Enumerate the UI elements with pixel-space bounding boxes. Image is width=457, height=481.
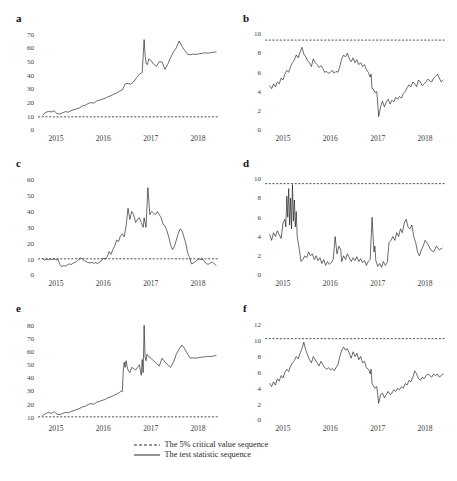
ytick-label: 40	[27, 208, 35, 216]
xtick-label: 2018	[191, 134, 206, 143]
ytick-label: 10	[254, 175, 262, 183]
ytick-label: 8	[258, 353, 262, 361]
xtick-label: 2015	[49, 134, 64, 143]
xtick-label: 2015	[276, 134, 291, 143]
ytick-label: 4	[258, 385, 262, 393]
ytick-label: 10	[254, 337, 262, 345]
ytick-label: 4	[258, 233, 262, 241]
panel-c: c01020304050602015201620172018	[2, 155, 230, 305]
ytick-label: 50	[27, 361, 35, 369]
panel-f: f0246810122015201620172018	[229, 300, 457, 450]
plot-d: 02468102015201620172018	[229, 155, 457, 305]
legend-label-critical: The 5% critical value sequence	[165, 440, 269, 449]
xtick-label: 2015	[49, 424, 64, 433]
xtick-label: 2017	[143, 424, 158, 433]
xtick-label: 2016	[96, 134, 111, 143]
ytick-label: 10	[254, 30, 262, 38]
ytick-label: 20	[27, 99, 35, 107]
ytick-label: 8	[258, 194, 262, 202]
ytick-label: 0	[31, 271, 35, 279]
ytick-label: 2	[258, 401, 262, 409]
test-statistic-series	[43, 188, 216, 267]
ytick-label: 0	[31, 126, 35, 134]
ytick-label: 6	[258, 369, 262, 377]
ytick-label: 80	[27, 322, 35, 330]
ytick-label: 30	[27, 224, 35, 232]
ytick-label: 50	[27, 192, 35, 200]
ytick-label: 4	[258, 88, 262, 96]
ytick-label: 20	[27, 240, 35, 248]
test-statistic-series	[43, 40, 216, 115]
xtick-label: 2018	[191, 424, 206, 433]
xtick-label: 2017	[370, 424, 385, 433]
ytick-label: 6	[258, 214, 262, 222]
ytick-label: 30	[27, 387, 35, 395]
plot-a: 0102030405060702015201620172018	[2, 10, 230, 160]
ytick-label: 0	[258, 126, 262, 134]
xtick-label: 2015	[49, 279, 64, 288]
ytick-label: 20	[27, 401, 35, 409]
xtick-label: 2016	[96, 279, 111, 288]
ytick-label: 30	[27, 85, 35, 93]
ytick-label: 6	[258, 69, 262, 77]
ytick-label: 70	[27, 335, 35, 343]
panel-d: d02468102015201620172018	[229, 155, 457, 305]
xtick-label: 2017	[370, 279, 385, 288]
plot-b: 02468102015201620172018	[229, 10, 457, 160]
xtick-label: 2017	[143, 279, 158, 288]
ytick-label: 2	[258, 107, 262, 115]
xtick-label: 2016	[96, 424, 111, 433]
ytick-label: 60	[27, 44, 35, 52]
figure-legend: The 5% critical value sequence The test …	[0, 440, 457, 459]
xtick-label: 2018	[191, 279, 206, 288]
xtick-label: 2016	[323, 134, 338, 143]
ytick-label: 0	[258, 271, 262, 279]
ytick-label: 70	[27, 31, 35, 39]
test-statistic-series	[270, 185, 442, 268]
plot-f: 0246810122015201620172018	[229, 300, 457, 450]
xtick-label: 2018	[418, 424, 433, 433]
xtick-label: 2015	[276, 279, 291, 288]
test-statistic-series	[270, 342, 443, 403]
legend-label-statistic: The test statistic sequence	[165, 450, 251, 459]
legend-row-critical: The 5% critical value sequence	[134, 440, 324, 449]
xtick-label: 2017	[370, 134, 385, 143]
dashed-line-swatch	[134, 441, 160, 449]
plot-e: 10203040506070802015201620172018	[2, 300, 230, 450]
ytick-label: 40	[27, 72, 35, 80]
xtick-label: 2017	[143, 134, 158, 143]
xtick-label: 2018	[418, 279, 433, 288]
solid-line-swatch	[134, 451, 160, 459]
ytick-label: 50	[27, 58, 35, 66]
ytick-label: 12	[254, 321, 262, 329]
ytick-label: 10	[27, 256, 35, 264]
ytick-label: 40	[27, 374, 35, 382]
panel-b: b02468102015201620172018	[229, 10, 457, 160]
legend-row-statistic: The test statistic sequence	[134, 450, 324, 459]
figure-container: a0102030405060702015201620172018b0246810…	[0, 0, 457, 481]
ytick-label: 0	[258, 416, 262, 424]
xtick-label: 2018	[418, 134, 433, 143]
plot-c: 01020304050602015201620172018	[2, 155, 230, 305]
xtick-label: 2016	[323, 279, 338, 288]
panel-e: e10203040506070802015201620172018	[2, 300, 230, 450]
ytick-label: 60	[27, 348, 35, 356]
panel-a: a0102030405060702015201620172018	[2, 10, 230, 160]
test-statistic-series	[43, 325, 216, 415]
ytick-label: 60	[27, 176, 35, 184]
xtick-label: 2015	[276, 424, 291, 433]
xtick-label: 2016	[323, 424, 338, 433]
test-statistic-series	[270, 47, 443, 116]
ytick-label: 8	[258, 49, 262, 57]
ytick-label: 10	[27, 414, 35, 422]
ytick-label: 10	[27, 113, 35, 121]
ytick-label: 2	[258, 252, 262, 260]
